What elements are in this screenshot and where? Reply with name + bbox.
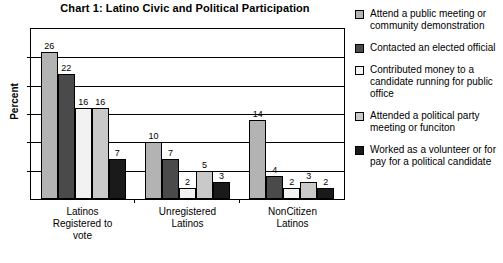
bar-column: 7: [162, 29, 179, 199]
bar-value-label: 3: [219, 171, 224, 182]
bar-column: 10: [145, 29, 162, 199]
x-axis-tick: [239, 199, 240, 203]
legend-item-label: Contributed money to a candidate running…: [370, 64, 503, 100]
chart-page: Chart 1: Latino Civic and Political Part…: [0, 0, 503, 263]
legend-item[interactable]: Worked as a volunteer or for pay for a p…: [355, 144, 503, 168]
bar-value-label: 2: [289, 177, 294, 188]
plot-area: 262216167107253144232: [30, 28, 345, 200]
y-axis-label: Percent: [9, 72, 20, 132]
bar[interactable]: [300, 182, 317, 199]
bar-value-label: 22: [61, 63, 71, 74]
bar-group: 144232: [240, 29, 344, 199]
bar-column: 3: [300, 29, 317, 199]
bar-value-label: 10: [148, 131, 158, 142]
legend-swatch-icon: [355, 146, 364, 155]
bar[interactable]: [75, 108, 92, 199]
bar-column: 3: [213, 29, 230, 199]
bar[interactable]: [109, 159, 126, 199]
bar-column: 22: [58, 29, 75, 199]
bar-value-label: 16: [95, 97, 105, 108]
bar[interactable]: [92, 108, 109, 199]
x-axis-categories: LatinosRegistered tovoteUnregisteredLati…: [30, 206, 345, 242]
bar-column: 2: [179, 29, 196, 199]
bar-group: 262216167: [31, 29, 135, 199]
bar-value-label: 2: [185, 177, 190, 188]
legend-item-label: Attend a public meeting or community dem…: [370, 8, 503, 32]
bar-column: 16: [92, 29, 109, 199]
bar-column: 4: [266, 29, 283, 199]
bar[interactable]: [196, 171, 213, 199]
x-axis-category-label: LatinosRegistered tovote: [30, 206, 135, 242]
bar-column: 5: [196, 29, 213, 199]
legend-swatch-icon: [355, 44, 364, 53]
page-title: Chart 1: Latino Civic and Political Part…: [20, 2, 350, 14]
legend-item[interactable]: Attend a public meeting or community dem…: [355, 8, 503, 32]
bar[interactable]: [58, 74, 75, 199]
legend-item-label: Attended a political party meeting or fu…: [370, 110, 503, 134]
bar-value-label: 7: [115, 148, 120, 159]
bar-value-label: 14: [253, 109, 263, 120]
bar[interactable]: [213, 182, 230, 199]
legend-swatch-icon: [355, 10, 364, 19]
legend-item[interactable]: Contributed money to a candidate running…: [355, 64, 503, 100]
bar[interactable]: [145, 142, 162, 199]
bar-value-label: 2: [323, 177, 328, 188]
bar[interactable]: [162, 159, 179, 199]
x-axis-tick: [134, 199, 135, 203]
bar-value-label: 4: [272, 165, 277, 176]
bar-column: 7: [109, 29, 126, 199]
bar-group: 107253: [135, 29, 239, 199]
bar-column: 16: [75, 29, 92, 199]
legend-swatch-icon: [355, 66, 364, 75]
bar-value-label: 26: [44, 41, 54, 52]
legend-item[interactable]: Attended a political party meeting or fu…: [355, 110, 503, 134]
x-axis-category-label: NonCitizenLatinos: [240, 206, 345, 242]
bar-column: 26: [41, 29, 58, 199]
bar[interactable]: [266, 176, 283, 199]
bar-value-label: 7: [168, 148, 173, 159]
bar[interactable]: [283, 188, 300, 199]
x-axis-category-label: UnregisteredLatinos: [135, 206, 240, 242]
legend-item-label: Worked as a volunteer or for pay for a p…: [370, 144, 503, 168]
legend-item[interactable]: Contacted an elected official: [355, 42, 503, 54]
bar[interactable]: [41, 52, 58, 199]
legend: Attend a public meeting or community dem…: [355, 8, 503, 178]
legend-swatch-icon: [355, 112, 364, 121]
bar-value-label: 16: [78, 97, 88, 108]
legend-item-label: Contacted an elected official: [370, 42, 495, 54]
bar-groups: 262216167107253144232: [31, 29, 344, 199]
bar-column: 2: [283, 29, 300, 199]
bar[interactable]: [179, 188, 196, 199]
bar[interactable]: [249, 120, 266, 199]
bar[interactable]: [317, 188, 334, 199]
bar-value-label: 5: [202, 160, 207, 171]
bar-column: 2: [317, 29, 334, 199]
bar-column: 14: [249, 29, 266, 199]
bar-value-label: 3: [306, 171, 311, 182]
